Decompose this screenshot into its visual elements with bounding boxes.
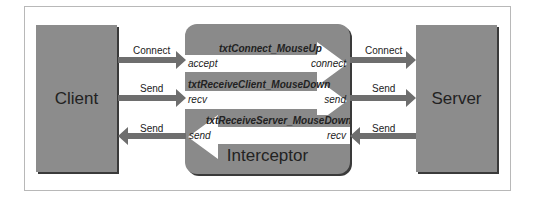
arrow-label-to-client-send: Send <box>140 123 163 134</box>
handler-receive-server: txtReceiveServer_MouseDown <box>206 115 350 126</box>
handler-receive-client: txtReceiveClient_MouseDown <box>188 79 330 90</box>
client-label: Client <box>36 89 117 109</box>
arrow-label-from-server-send: Send <box>372 123 395 134</box>
interceptor-label: Interceptor <box>185 146 350 166</box>
server-box: Server <box>416 25 497 172</box>
arrow-label-client-send: Send <box>140 83 163 94</box>
endpoint-recv-server: recv <box>327 130 346 141</box>
client-box: Client <box>36 25 117 172</box>
interceptor-box: txtConnect_MouseUp accept connect txtRec… <box>185 24 350 174</box>
endpoint-send-server: send <box>324 94 346 105</box>
arrow-label-server-send: Send <box>372 83 395 94</box>
arrow-label-server-connect: Connect <box>365 45 402 56</box>
endpoint-recv-client: recv <box>188 94 207 105</box>
handler-connect: txtConnect_MouseUp <box>219 43 322 54</box>
server-label: Server <box>416 89 497 109</box>
arrow-label-client-connect: Connect <box>133 45 170 56</box>
endpoint-send-client: send <box>189 130 211 141</box>
endpoint-connect: connect <box>311 58 346 69</box>
endpoint-accept: accept <box>188 58 217 69</box>
